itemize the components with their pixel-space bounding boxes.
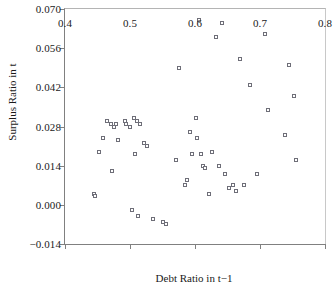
data-point <box>283 133 287 137</box>
y-axis-title: Surplus Ratio in t <box>6 42 18 162</box>
data-point <box>97 150 101 154</box>
y-axis-tick-label: 0.056 <box>36 42 61 54</box>
x-axis-tick-mark <box>130 244 131 249</box>
data-point <box>136 214 140 218</box>
y-axis-tick-label: 0.014 <box>36 160 61 172</box>
plot-area: −0.0140.0000.0140.0280.0420.0560.070 0.4… <box>64 8 326 245</box>
data-point <box>287 63 291 67</box>
data-point <box>110 169 114 173</box>
data-point <box>223 172 227 176</box>
data-point <box>214 35 218 39</box>
x-axis-tick-label: 0.6 <box>188 17 202 29</box>
data-point <box>248 83 252 87</box>
y-axis-tick-label: 0.000 <box>36 199 61 211</box>
data-point <box>138 122 142 126</box>
data-point <box>93 194 97 198</box>
data-points-layer <box>65 9 325 244</box>
data-point <box>101 136 105 140</box>
data-point <box>174 158 178 162</box>
data-point <box>133 152 137 156</box>
scatter-chart-figure: −0.0140.0000.0140.0280.0420.0560.070 0.4… <box>0 0 333 293</box>
data-point <box>203 166 207 170</box>
x-axis-tick-mark <box>195 244 196 249</box>
data-point <box>199 152 203 156</box>
data-point <box>183 183 187 187</box>
x-axis-tick-mark <box>65 244 66 249</box>
data-point <box>116 138 120 142</box>
data-point <box>151 217 155 221</box>
data-point <box>207 192 211 196</box>
data-point <box>177 66 181 70</box>
data-point <box>194 116 198 120</box>
data-point <box>114 122 118 126</box>
data-point <box>130 208 134 212</box>
y-axis-tick-label: −0.014 <box>29 238 61 250</box>
data-point <box>220 21 224 25</box>
y-axis-tick-label: 0.028 <box>36 121 61 133</box>
y-axis-tick-label: 0.042 <box>36 81 61 93</box>
data-point <box>238 57 242 61</box>
y-axis-tick-label: 0.070 <box>36 3 61 15</box>
data-point <box>190 152 194 156</box>
x-axis-tick-mark <box>260 244 261 249</box>
data-point <box>128 125 132 129</box>
data-point <box>188 130 192 134</box>
data-point <box>164 222 168 226</box>
data-point <box>217 164 221 168</box>
x-axis-tick-label: 0.5 <box>123 17 137 29</box>
data-point <box>234 189 238 193</box>
data-point <box>294 158 298 162</box>
x-axis-tick-mark <box>325 244 326 249</box>
data-point <box>242 183 246 187</box>
data-point <box>292 94 296 98</box>
data-point <box>231 183 235 187</box>
data-point <box>266 108 270 112</box>
data-point <box>185 178 189 182</box>
x-axis-tick-label: 0.4 <box>58 17 72 29</box>
x-axis-tick-label: 0.8 <box>318 17 332 29</box>
data-point <box>195 136 199 140</box>
data-point <box>263 32 267 36</box>
data-point <box>210 150 214 154</box>
x-axis-title: Debt Ratio in t−1 <box>64 272 324 284</box>
data-point <box>145 144 149 148</box>
x-axis-tick-label: 0.7 <box>253 17 267 29</box>
data-point <box>255 172 259 176</box>
